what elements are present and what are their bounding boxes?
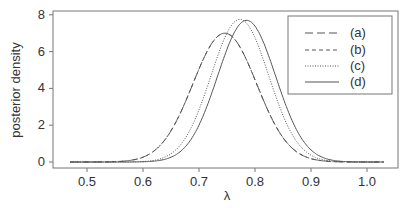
x-axis-label: λ: [224, 188, 231, 203]
legend-box: [288, 16, 392, 94]
y-axis-label: posterior density: [8, 42, 23, 138]
x-tick-label: 0.9: [302, 174, 320, 189]
y-tick-label: 4: [38, 80, 45, 95]
x-tick-label: 1.0: [358, 174, 376, 189]
y-tick-label: 2: [38, 117, 45, 132]
posterior-density-chart: 02468 0.50.60.70.80.91.0 posterior densi…: [0, 0, 406, 211]
y-tick-label: 8: [38, 7, 45, 22]
y-tick-label: 6: [38, 44, 45, 59]
x-axis: 0.50.60.70.80.91.0: [78, 168, 376, 189]
legend-label-a: (a): [350, 25, 366, 40]
legend-label-c: (c): [350, 58, 365, 73]
x-tick-label: 0.6: [134, 174, 152, 189]
x-tick-label: 0.8: [246, 174, 264, 189]
legend-label-d: (d): [350, 74, 366, 89]
y-tick-label: 0: [38, 154, 45, 169]
x-tick-label: 0.7: [190, 174, 208, 189]
x-tick-label: 0.5: [78, 174, 96, 189]
y-axis: 02468: [38, 7, 53, 169]
legend: (a) (b) (c) (d): [288, 16, 392, 94]
legend-label-b: (b): [350, 42, 366, 57]
